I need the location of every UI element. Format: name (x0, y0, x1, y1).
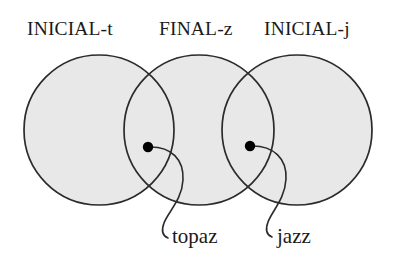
element-dot-jazz (245, 141, 255, 151)
annotation-label-jazz: jazz (277, 226, 311, 247)
annotation-label-topaz: topaz (172, 226, 217, 247)
venn-diagram-figure: INICIAL-t FINAL-z INICIAL-j topaz jazz (0, 0, 398, 270)
element-dot-topaz (143, 142, 153, 152)
